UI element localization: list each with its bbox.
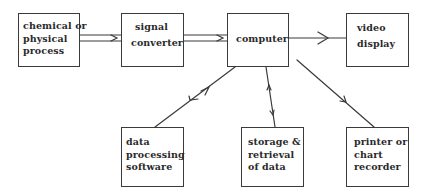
node-label-process: chemical or physical process [23,20,87,58]
edge-computer-to-video [289,32,346,44]
edge-computer-to-printer [297,60,374,127]
edge-computer-to-storage [266,67,275,127]
node-label-computer: computer [236,33,288,46]
node-label-storage: storage & retrieval of data [248,136,301,174]
node-label-converter: signal converter [131,19,183,51]
diagram-canvas: chemical or physical process signal conv… [0,0,427,194]
node-label-video: video display [357,20,395,52]
node-label-software: data processing software [126,136,185,174]
edge-converter-to-computer [184,35,227,41]
node-label-printer: printer or chart recorder [354,136,407,174]
edge-computer-to-software [155,67,235,127]
